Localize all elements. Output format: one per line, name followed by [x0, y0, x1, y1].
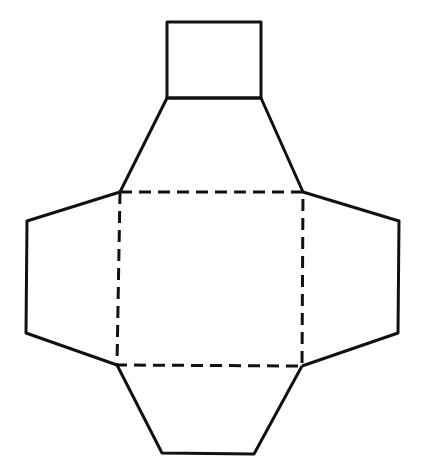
net-diagram [0, 0, 425, 472]
top-flap [120, 98, 303, 192]
base-dashed-square [117, 192, 303, 366]
top-square-face [167, 22, 261, 98]
left-flap [26, 192, 120, 365]
right-flap [302, 192, 399, 366]
bottom-flap [117, 365, 302, 454]
